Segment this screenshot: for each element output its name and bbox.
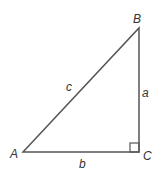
side-label-a: a — [142, 86, 149, 100]
side-label-c: c — [66, 80, 72, 94]
triangle-outline — [23, 28, 139, 152]
vertex-label-b: B — [133, 12, 141, 26]
right-angle-marker — [130, 143, 139, 152]
side-label-b: b — [79, 157, 86, 171]
vertex-label-c: C — [143, 149, 152, 163]
vertex-label-a: A — [9, 147, 18, 161]
right-triangle-diagram: B A C c a b — [0, 0, 167, 181]
